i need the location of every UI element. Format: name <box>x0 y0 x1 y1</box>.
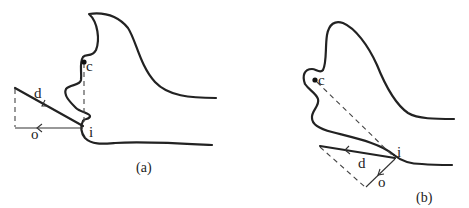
panel-b: c i d o (b) <box>304 22 454 206</box>
diagram-canvas: c i d o (a) c i d o (b) <box>0 0 469 208</box>
panel-a: c i d o (a) <box>15 14 216 176</box>
panel-b-caption: (b) <box>416 190 433 206</box>
panel-b-label-d: d <box>358 155 366 171</box>
panel-a-caption: (a) <box>136 160 152 176</box>
panel-a-label-d: d <box>34 85 42 101</box>
panel-b-label-i: i <box>397 144 401 160</box>
panel-b-label-c: c <box>318 72 325 88</box>
panel-a-d-vector <box>15 88 83 126</box>
panel-b-c-to-i-dashed-line <box>317 82 393 156</box>
panel-a-shape-lower-outline <box>81 121 212 145</box>
panel-b-shape-lower-outline <box>394 155 452 165</box>
panel-b-label-o: o <box>378 174 386 190</box>
panel-b-center-point <box>312 77 317 82</box>
panel-b-shape-upper-outline <box>304 22 454 155</box>
panel-a-label-c: c <box>86 58 93 74</box>
panel-a-label-o: o <box>31 126 39 142</box>
panel-a-label-i: i <box>89 124 93 140</box>
